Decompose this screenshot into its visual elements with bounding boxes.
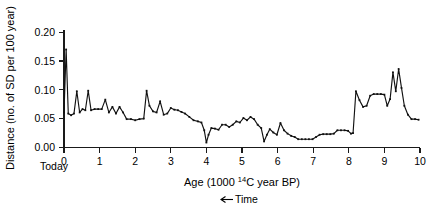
data-point — [287, 133, 289, 135]
data-point — [253, 118, 255, 120]
data-point — [70, 114, 72, 116]
y-tick-label-0: 0.00 — [35, 141, 56, 153]
data-point — [376, 93, 378, 95]
data-point — [119, 106, 121, 108]
data-point — [79, 112, 81, 114]
data-point — [104, 99, 106, 101]
data-point — [97, 108, 99, 110]
x-tick-label-8: 8 — [346, 155, 352, 167]
data-point — [266, 134, 268, 136]
data-point — [350, 133, 352, 135]
data-point — [373, 93, 375, 95]
data-point — [208, 134, 210, 136]
data-point — [352, 132, 354, 134]
data-point — [112, 106, 114, 108]
data-point — [344, 129, 346, 131]
data-point — [355, 90, 357, 92]
data-point — [235, 120, 237, 122]
data-point — [407, 114, 409, 116]
time-direction-label: Time — [235, 193, 258, 205]
data-point — [156, 112, 158, 114]
data-point — [221, 124, 223, 126]
data-point — [359, 99, 361, 101]
data-series-distance-line — [64, 50, 419, 143]
data-point — [389, 98, 391, 100]
data-point — [401, 87, 403, 89]
data-point — [90, 109, 92, 111]
data-point — [197, 120, 199, 122]
data-point — [260, 127, 262, 129]
distance-vs-age-line-chart: 0.00 0.05 0.10 0.15 0.20 012345678910 Di… — [0, 0, 439, 212]
y-tick-label-2: 0.10 — [35, 84, 56, 96]
data-point — [206, 142, 208, 144]
data-point — [418, 119, 420, 121]
data-point — [380, 93, 382, 95]
x-tick-label-2: 2 — [132, 155, 138, 167]
data-point — [170, 107, 172, 109]
data-point — [159, 100, 161, 102]
data-point — [276, 134, 278, 136]
data-point — [250, 116, 252, 118]
data-point — [294, 136, 296, 138]
data-point — [146, 90, 148, 92]
x-tick-label-5: 5 — [239, 155, 245, 167]
data-point — [322, 133, 324, 135]
data-point — [386, 105, 388, 107]
data-point — [308, 138, 310, 140]
data-point — [326, 133, 328, 135]
data-point — [130, 118, 132, 120]
y-tick-label-1: 0.05 — [35, 112, 56, 124]
data-point — [319, 134, 321, 136]
data-point — [228, 126, 230, 128]
x-axis-title: Age (1000 14C year BP) — [184, 175, 300, 188]
data-point — [243, 117, 245, 119]
data-point — [403, 105, 405, 107]
data-point — [203, 129, 205, 131]
data-point — [312, 138, 314, 140]
data-point — [362, 106, 364, 108]
data-point — [283, 129, 285, 131]
today-label: Today — [40, 160, 69, 172]
data-point — [304, 138, 306, 140]
y-axis-tick-labels: 0.00 0.05 0.10 0.15 0.20 — [35, 26, 56, 153]
data-point — [152, 110, 154, 112]
data-point — [193, 119, 195, 121]
data-point — [369, 95, 371, 97]
data-point — [173, 109, 175, 111]
y-tick-label-3: 0.15 — [35, 55, 56, 67]
data-point — [290, 135, 292, 137]
data-point — [347, 130, 349, 132]
data-point — [263, 141, 265, 143]
x-tick-label-4: 4 — [203, 155, 209, 167]
data-point — [184, 113, 186, 115]
data-point — [239, 122, 241, 124]
data-point — [65, 49, 67, 51]
time-direction-annotation: Time — [221, 193, 258, 205]
x-tick-label-6: 6 — [275, 155, 281, 167]
x-tick-label-3: 3 — [168, 155, 174, 167]
data-point — [225, 124, 227, 126]
data-point — [188, 116, 190, 118]
data-point — [73, 113, 75, 115]
data-point — [297, 138, 299, 140]
data-series-distance-points — [63, 49, 419, 144]
data-point — [108, 112, 110, 114]
data-point — [101, 108, 103, 110]
data-point — [82, 108, 84, 110]
data-point — [315, 136, 317, 138]
data-point — [201, 122, 203, 124]
data-point — [76, 90, 78, 92]
x-axis-title-pre: Age (1000 — [184, 176, 238, 188]
data-point — [280, 122, 282, 124]
data-point — [340, 129, 342, 131]
data-point — [232, 124, 234, 126]
y-tick-label-4: 0.20 — [35, 26, 56, 38]
x-axis-title-superscript: 14 — [238, 175, 246, 184]
data-point — [149, 105, 151, 107]
data-point — [269, 128, 271, 130]
data-point — [398, 68, 400, 70]
data-point — [84, 109, 86, 111]
data-point — [115, 113, 117, 115]
data-point — [246, 119, 248, 121]
data-point — [414, 118, 416, 120]
